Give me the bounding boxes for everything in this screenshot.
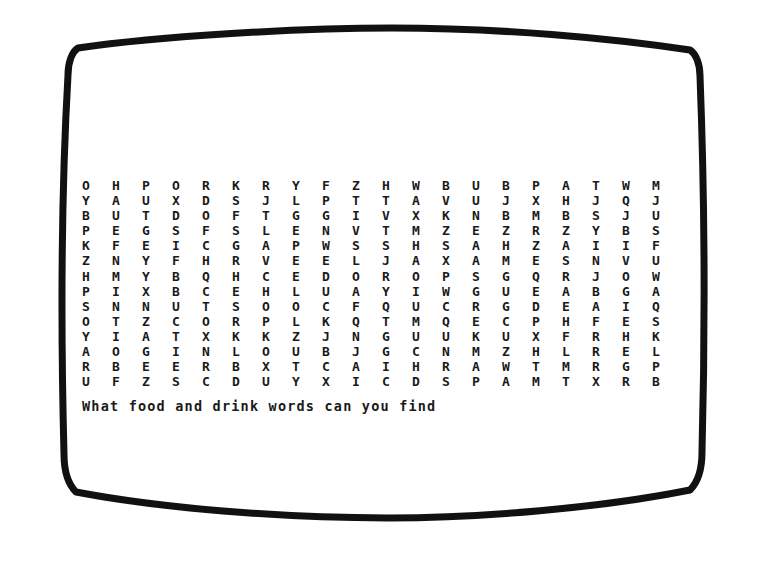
puzzle-caption: What food and drink words can you find — [82, 398, 682, 414]
letter-grid: OHPORKRYFZHWBUBPATWMYAUXDSJLPTTAVUJXHJQJ… — [82, 178, 682, 389]
grid-letter: K — [232, 329, 262, 344]
grid-letter: E — [142, 238, 172, 253]
grid-letter: B — [172, 284, 202, 299]
grid-letter: O — [112, 344, 142, 359]
grid-letter: N — [112, 299, 142, 314]
grid-letter: Q — [532, 269, 562, 284]
grid-letter: Y — [292, 374, 322, 389]
grid-letter: O — [262, 299, 292, 314]
grid-letter: B — [592, 284, 622, 299]
grid-letter: E — [472, 314, 502, 329]
grid-letter: E — [622, 344, 652, 359]
grid-letter: R — [82, 359, 112, 374]
grid-letter: R — [592, 359, 622, 374]
grid-letter: Z — [502, 223, 532, 238]
grid-letter: U — [412, 299, 442, 314]
grid-letter: L — [352, 253, 382, 268]
grid-letter: J — [502, 193, 532, 208]
grid-letter: C — [502, 314, 532, 329]
grid-letter: T — [532, 359, 562, 374]
grid-letter: Y — [82, 329, 112, 344]
grid-letter: H — [412, 359, 442, 374]
grid-letter: K — [652, 329, 682, 344]
grid-letter: Z — [82, 253, 112, 268]
grid-row: OTZCORPLKQTMQECPHFES — [82, 314, 682, 329]
grid-letter: X — [202, 329, 232, 344]
grid-letter: I — [592, 238, 622, 253]
grid-letter: K — [262, 329, 292, 344]
grid-letter: X — [532, 329, 562, 344]
grid-letter: N — [472, 208, 502, 223]
grid-letter: I — [112, 329, 142, 344]
grid-letter: N — [442, 344, 472, 359]
grid-letter: Y — [292, 178, 322, 193]
grid-letter: H — [82, 269, 112, 284]
grid-letter: N — [202, 344, 232, 359]
grid-letter: I — [352, 374, 382, 389]
grid-letter: P — [82, 223, 112, 238]
grid-letter: S — [652, 314, 682, 329]
grid-letter: P — [82, 284, 112, 299]
grid-letter: F — [112, 238, 142, 253]
grid-letter: S — [232, 299, 262, 314]
grid-letter: I — [622, 238, 652, 253]
grid-letter: Q — [652, 299, 682, 314]
grid-letter: P — [532, 178, 562, 193]
grid-letter: O — [412, 269, 442, 284]
grid-letter: U — [412, 329, 442, 344]
grid-letter: B — [322, 344, 352, 359]
grid-letter: U — [172, 299, 202, 314]
grid-letter: U — [142, 193, 172, 208]
grid-letter: F — [562, 329, 592, 344]
grid-letter: X — [412, 208, 442, 223]
grid-letter: H — [562, 314, 592, 329]
grid-letter: W — [502, 359, 532, 374]
word-search-screenshot: OHPORKRYFZHWBUBPATWMYAUXDSJLPTTAVUJXHJQJ… — [0, 0, 760, 576]
grid-letter: O — [82, 314, 112, 329]
grid-letter: H — [532, 344, 562, 359]
grid-letter: M — [652, 178, 682, 193]
grid-letter: X — [592, 374, 622, 389]
grid-letter: N — [142, 299, 172, 314]
grid-letter: M — [532, 374, 562, 389]
grid-letter: E — [112, 223, 142, 238]
grid-letter: Z — [442, 223, 472, 238]
grid-letter: G — [472, 284, 502, 299]
grid-letter: N — [322, 223, 352, 238]
grid-letter: O — [172, 178, 202, 193]
grid-letter: T — [292, 359, 322, 374]
grid-letter: J — [652, 193, 682, 208]
grid-letter: O — [622, 269, 652, 284]
grid-letter: R — [622, 374, 652, 389]
grid-letter: P — [532, 314, 562, 329]
grid-letter: M — [412, 314, 442, 329]
grid-row: ZNYFHRVEELJAXAMESNVU — [82, 253, 682, 268]
grid-letter: B — [112, 359, 142, 374]
grid-letter: O — [82, 178, 112, 193]
grid-letter: Z — [502, 344, 532, 359]
grid-letter: D — [202, 193, 232, 208]
grid-row: KFEICGAPWSSHSAHZAIIF — [82, 238, 682, 253]
grid-letter: P — [262, 314, 292, 329]
grid-letter: H — [502, 238, 532, 253]
grid-letter: Z — [562, 223, 592, 238]
grid-letter: J — [592, 193, 622, 208]
grid-letter: B — [502, 208, 532, 223]
grid-letter: Z — [352, 178, 382, 193]
grid-letter: R — [562, 269, 592, 284]
grid-letter: X — [322, 374, 352, 389]
grid-letter: T — [382, 193, 412, 208]
grid-letter: A — [352, 359, 382, 374]
grid-row: AOGINLOUBJGCNMZHLREL — [82, 344, 682, 359]
grid-row: YAUXDSJLPTTAVUJXHJQJ — [82, 193, 682, 208]
grid-letter: S — [442, 238, 472, 253]
grid-letter: P — [472, 374, 502, 389]
grid-letter: Y — [592, 223, 622, 238]
grid-letter: S — [232, 193, 262, 208]
grid-letter: B — [232, 359, 262, 374]
grid-letter: H — [112, 178, 142, 193]
grid-letter: C — [202, 284, 232, 299]
grid-letter: O — [202, 314, 232, 329]
grid-letter: A — [472, 238, 502, 253]
grid-letter: D — [322, 269, 352, 284]
